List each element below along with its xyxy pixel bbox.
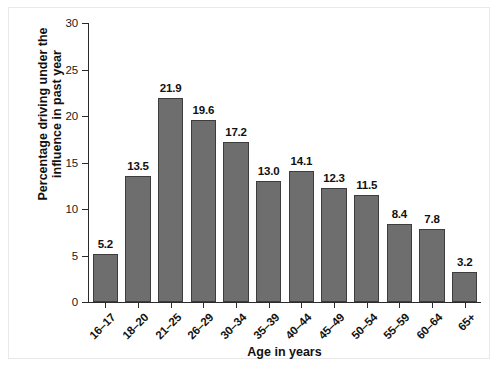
bar-value-label-40–44: 14.1 [291, 155, 313, 167]
bar-60–64 [419, 229, 444, 302]
bar-value-label-18–20: 13.5 [127, 160, 149, 172]
bar-26–29 [191, 120, 216, 302]
bar-value-label-50–54: 11.5 [356, 179, 377, 191]
x-tick-mark-21–25 [171, 303, 172, 308]
bar-value-label-35–39: 13.0 [258, 165, 280, 177]
bar-value-label-60–64: 7.8 [424, 213, 439, 225]
bar-value-label-16–17: 5.2 [98, 238, 113, 250]
y-axis-title-line-1: Percentage driving under the [36, 0, 50, 244]
bar-45–49 [321, 188, 346, 302]
bar-50–54 [354, 195, 379, 302]
y-tick-label-25: 25 [54, 64, 78, 76]
bar-value-label-30–34: 17.2 [225, 126, 247, 138]
y-tick-label-30: 30 [54, 17, 78, 29]
bar-16–17 [93, 254, 118, 302]
x-tick-mark-40–44 [301, 303, 302, 308]
bar-value-label-55–59: 8.4 [392, 208, 407, 220]
x-tick-mark-55–59 [399, 303, 400, 308]
x-tick-mark-50–54 [367, 303, 368, 308]
y-tick-label-10: 10 [54, 203, 78, 215]
x-tick-mark-35–39 [269, 303, 270, 308]
bar-40–44 [289, 171, 314, 302]
bar-35–39 [256, 181, 281, 302]
x-tick-mark-30–34 [236, 303, 237, 308]
y-tick-label-20: 20 [54, 110, 78, 122]
bar-55–59 [387, 224, 412, 302]
bar-value-label-21–25: 21.9 [160, 82, 182, 94]
x-tick-mark-16–17 [105, 303, 106, 308]
bar-30–34 [223, 142, 248, 302]
y-tick-label-5: 5 [54, 250, 78, 262]
bar-65+ [452, 272, 477, 302]
x-tick-mark-18–20 [138, 303, 139, 308]
x-tick-mark-26–29 [203, 303, 204, 308]
y-tick-label-0: 0 [54, 296, 78, 308]
bar-18–20 [125, 176, 150, 302]
bar-value-label-65+: 3.2 [457, 256, 472, 268]
bottom-clipped-artifact [60, 368, 480, 378]
bar-21–25 [158, 98, 183, 302]
x-axis-line [88, 302, 481, 303]
x-tick-mark-60–64 [432, 303, 433, 308]
chart-figure: Percentage driving under the influence i… [0, 0, 499, 381]
x-tick-mark-65+ [465, 303, 466, 308]
x-axis-title: Age in years [88, 345, 481, 359]
y-tick-label-15: 15 [54, 157, 78, 169]
bar-value-label-45–49: 12.3 [323, 172, 345, 184]
x-tick-mark-45–49 [334, 303, 335, 308]
bar-value-label-26–29: 19.6 [193, 104, 215, 116]
